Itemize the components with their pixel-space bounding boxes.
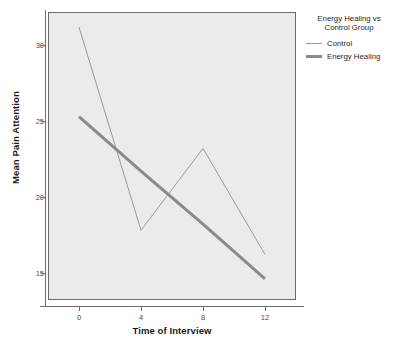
legend-entry-energy-healing: Energy Healing <box>306 52 398 61</box>
legend-title-line-1: Energy Healing vs <box>306 14 392 23</box>
series-line-energy-healing <box>79 117 265 279</box>
x-tick-label: 0 <box>67 313 91 322</box>
legend-title: Energy Healing vs Control Group <box>306 14 392 33</box>
legend-label-control: Control <box>327 39 352 48</box>
legend-line-icon-energy-healing <box>306 55 322 58</box>
x-tick-label: 12 <box>253 313 277 322</box>
y-axis-ticks: 15202530 <box>0 0 44 348</box>
legend-label-energy-healing: Energy Healing <box>327 52 380 61</box>
line-chart: 15202530 04812 Mean Pain Attention Time … <box>0 0 399 348</box>
legend-title-line-2: Control Group <box>306 23 392 32</box>
x-axis-line <box>40 306 304 307</box>
legend: Energy Healing vs Control Group Control … <box>306 14 398 65</box>
y-axis-title: Mean Pain Attention <box>10 68 21 208</box>
x-axis-title: Time of Interview <box>48 325 296 336</box>
legend-entry-control: Control <box>306 39 398 48</box>
x-axis-ticks: 04812 <box>0 306 399 322</box>
x-tick-label: 8 <box>191 313 215 322</box>
x-tick-label: 4 <box>129 313 153 322</box>
legend-line-icon-control <box>306 43 322 44</box>
y-axis-line <box>45 10 46 306</box>
